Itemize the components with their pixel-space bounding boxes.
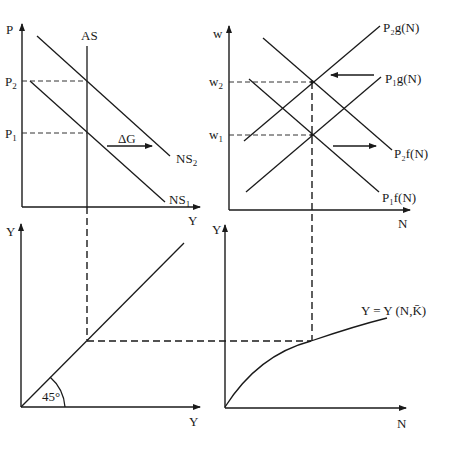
p2f-label: P₂f(N) — [394, 146, 428, 161]
w1-label: w1 — [209, 127, 223, 144]
panel-production-function: Y N Y = Y (N,K̄) — [212, 222, 426, 431]
delta-g-label: ΔG — [118, 131, 136, 146]
45-degree-line — [21, 243, 184, 407]
equilibrium-point-1 — [310, 133, 314, 137]
as-label: AS — [81, 28, 98, 43]
ns1-curve — [30, 81, 165, 202]
ns1-label: NS1 — [169, 192, 190, 209]
p2g-label: P₂g(N) — [383, 20, 419, 35]
panel-price-output: P Y AS NS2 NS1 P2 P1 ΔG — [5, 22, 200, 228]
w2-label: w2 — [209, 74, 223, 91]
w-axis-label: w — [213, 26, 223, 41]
n-axis-label-bottom-right: N — [397, 416, 407, 431]
p1-label: P1 — [5, 126, 17, 143]
p1g-label: P₁g(N) — [385, 71, 421, 86]
panel-labor-market: w N w2 w1 P₂g(N) P₁g(N) P₂f(N) P₁f(N) — [209, 20, 428, 231]
p1f-label: P₁f(N) — [382, 190, 416, 205]
y-axis-label-vertical: Y — [6, 224, 16, 239]
production-function-label: Y = Y (N,K̄) — [361, 303, 426, 318]
p2f-curve — [263, 38, 392, 150]
production-function-curve — [225, 318, 387, 407]
panel-45-degree: Y Y 45° — [6, 224, 200, 429]
four-quadrant-diagram: P Y AS NS2 NS1 P2 P1 ΔG w N w2 w1 P₂g(N) — [0, 0, 451, 455]
ns2-curve — [37, 36, 170, 156]
angle-label: 45° — [42, 389, 60, 404]
y-axis-label-top-left: Y — [188, 213, 198, 228]
ns2-label: NS2 — [176, 151, 197, 168]
y-axis-label-bottom-right: Y — [212, 222, 222, 237]
n-axis-label-top-right: N — [398, 216, 408, 231]
y-axis-label-horizontal: Y — [189, 414, 199, 429]
p-axis-label: P — [6, 22, 13, 37]
p2-label: P2 — [5, 74, 17, 91]
